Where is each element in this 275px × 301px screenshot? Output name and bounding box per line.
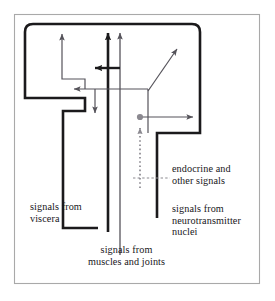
label-muscles-line1: signals from [88,244,165,256]
outgoing-up-left-thin-arrow [62,34,85,89]
label-viscera-line1: signals from [30,201,82,213]
label-neurotransmitter-line1: signals from [172,203,241,215]
label-endocrine-and-other-signals: endocrine and other signals [172,163,231,186]
synaptic-bouton-dot [137,114,143,120]
label-endocrine-line1: endocrine and [172,163,231,175]
label-viscera-line2: viscera [30,213,82,225]
label-muscles-and-joints: signals from muscles and joints [88,244,165,267]
label-muscles-line2: muscles and joints [88,256,165,268]
label-endocrine-line2: other signals [172,175,231,187]
label-viscera: signals from viscera [30,201,82,224]
figure-canvas: signals from viscera signals from muscle… [0,0,275,301]
label-neurotransmitter-line3: nuclei [172,226,241,238]
label-neurotransmitter-nuclei: signals from neurotransmitter nuclei [172,203,241,238]
outgoing-diagonal-thin-arrow [148,49,177,91]
label-neurotransmitter-line2: neurotransmitter [172,215,241,227]
